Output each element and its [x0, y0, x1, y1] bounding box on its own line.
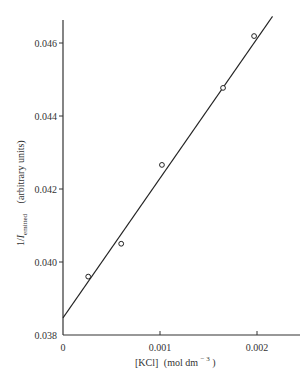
- y-tick-label: 0.044: [35, 111, 58, 122]
- x-axis-label: [KCl] (mol dm − 3 ): [135, 352, 216, 369]
- y-tick-label: 0.040: [35, 257, 58, 268]
- y-tick-label: 0.042: [35, 184, 58, 195]
- data-point: [119, 241, 124, 246]
- data-point: [160, 163, 165, 168]
- x-tick-label: 0.002: [246, 342, 269, 353]
- data-point: [221, 85, 226, 90]
- y-tick-label: 0.038: [35, 330, 58, 341]
- data-point: [252, 34, 257, 39]
- x-ticks: 00.0010.002: [61, 331, 269, 353]
- data-point: [86, 274, 91, 279]
- y-axis-label: 1/Iemitted (arbitrary units): [15, 140, 29, 246]
- x-tick-label: 0.001: [149, 342, 172, 353]
- data-points: [86, 34, 257, 279]
- y-ticks: 0.0380.0400.0420.0440.046: [35, 38, 64, 341]
- chart: 0.0380.0400.0420.0440.046 00.0010.002 [K…: [0, 0, 304, 382]
- fit-line: [63, 16, 273, 317]
- y-tick-label: 0.046: [35, 38, 58, 49]
- x-tick-label: 0: [61, 342, 66, 353]
